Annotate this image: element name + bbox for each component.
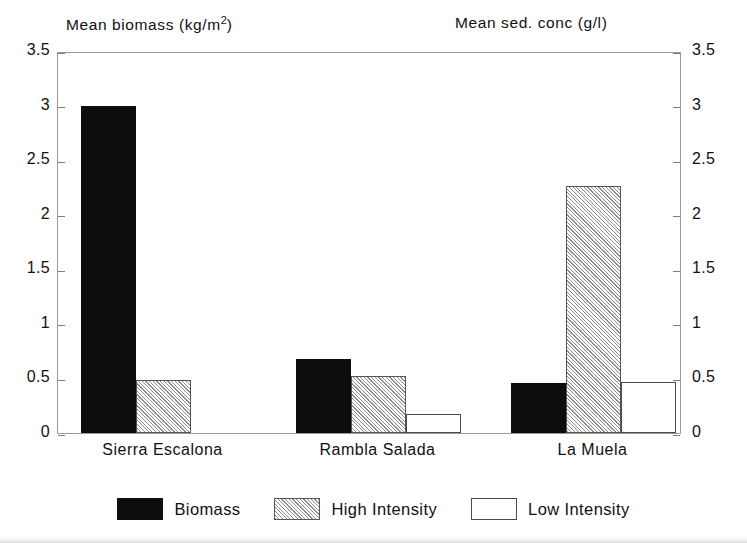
category-label: Rambla Salada bbox=[288, 441, 468, 459]
left-axis-title-tail: ) bbox=[227, 16, 233, 33]
right-axis-tick bbox=[673, 162, 680, 163]
left-axis-tick-label: 1 bbox=[2, 314, 50, 332]
left-axis-tick bbox=[58, 162, 65, 163]
right-axis-tick-label: 0 bbox=[692, 423, 744, 441]
left-axis-tick bbox=[58, 107, 65, 108]
bar-high-intensity-sierra-escalona bbox=[136, 380, 191, 433]
left-axis-tick bbox=[58, 325, 65, 326]
right-axis-tick bbox=[673, 271, 680, 272]
bar-low-intensity-la-muela bbox=[621, 382, 676, 433]
legend-item: Low Intensity bbox=[471, 498, 630, 520]
right-axis-tick bbox=[673, 107, 680, 108]
right-axis-tick-label: 3.5 bbox=[692, 41, 744, 59]
category-label: Sierra Escalona bbox=[73, 441, 253, 459]
left-axis-tick-label: 0.5 bbox=[2, 368, 50, 386]
bar-biomass-la-muela bbox=[511, 383, 566, 433]
legend-item: High Intensity bbox=[274, 498, 437, 520]
left-axis-tick-label: 1.5 bbox=[2, 259, 50, 277]
right-axis-tick bbox=[673, 325, 680, 326]
bar-biomass-sierra-escalona bbox=[81, 106, 136, 433]
left-axis-tick bbox=[58, 216, 65, 217]
category-axis-labels: Sierra EscalonaRambla SaladaLa Muela bbox=[57, 441, 681, 467]
left-axis-tick-label: 2.5 bbox=[2, 150, 50, 168]
left-axis-tick bbox=[58, 271, 65, 272]
category-label: La Muela bbox=[503, 441, 683, 459]
right-axis-tick-label: 2.5 bbox=[692, 150, 744, 168]
right-axis-tick-label: 1 bbox=[692, 314, 744, 332]
left-axis-tick-label: 2 bbox=[2, 205, 50, 223]
bar-high-intensity-la-muela bbox=[566, 186, 621, 433]
page-edge-artifact bbox=[0, 536, 747, 543]
left-axis-tick bbox=[58, 435, 65, 436]
legend-swatch-icon bbox=[117, 498, 163, 520]
legend-label: High Intensity bbox=[331, 500, 437, 519]
left-axis-title: Mean biomass (kg/m2) bbox=[66, 14, 233, 34]
right-axis-tick-label: 0.5 bbox=[692, 368, 744, 386]
left-axis-tick-label: 0 bbox=[2, 423, 50, 441]
right-axis-tick bbox=[673, 53, 680, 54]
right-axis-tick-label: 1.5 bbox=[692, 259, 744, 277]
legend-label: Low Intensity bbox=[528, 500, 630, 519]
left-axis-tick-label: 3 bbox=[2, 96, 50, 114]
right-axis-tick-label: 2 bbox=[692, 205, 744, 223]
right-axis-tick bbox=[673, 435, 680, 436]
bar-high-intensity-rambla-salada bbox=[351, 376, 406, 433]
left-axis-tick bbox=[58, 53, 65, 54]
right-axis-tick-label: 3 bbox=[692, 96, 744, 114]
legend-item: Biomass bbox=[117, 498, 240, 520]
bar-biomass-rambla-salada bbox=[296, 359, 351, 433]
plot-area bbox=[57, 52, 681, 434]
right-axis-tick bbox=[673, 216, 680, 217]
right-axis-title: Mean sed. conc (g/l) bbox=[455, 14, 607, 32]
legend-swatch-icon bbox=[471, 498, 517, 520]
bar-chart-figure: Mean biomass (kg/m2) Mean sed. conc (g/l… bbox=[0, 0, 747, 543]
legend-label: Biomass bbox=[174, 500, 240, 519]
left-axis-title-main: Mean biomass (kg/m bbox=[66, 16, 221, 33]
right-axis-tick-labels: 3.532.521.510.50 bbox=[692, 52, 744, 434]
chart-legend: BiomassHigh IntensityLow Intensity bbox=[0, 492, 747, 526]
left-axis-tick-label: 3.5 bbox=[2, 41, 50, 59]
left-axis-tick-labels: 3.532.521.510.50 bbox=[2, 52, 50, 434]
legend-swatch-icon bbox=[274, 498, 320, 520]
left-axis-tick bbox=[58, 380, 65, 381]
bar-low-intensity-rambla-salada bbox=[406, 414, 461, 433]
